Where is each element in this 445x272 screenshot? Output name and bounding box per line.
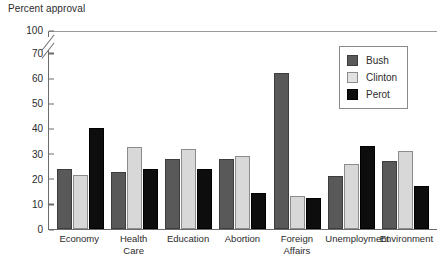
bar-bush-unemployment (328, 176, 343, 229)
bar-perot-economy (89, 128, 104, 229)
legend-swatch-bush (347, 55, 358, 66)
x-label-environment: Environment (380, 233, 432, 271)
x-label-abortion: Abortion (216, 233, 268, 271)
legend-item-bush: Bush (347, 52, 397, 69)
legend-swatch-clinton (347, 72, 358, 83)
bar-chart: Percent approval 010203040506070100 Econ… (0, 0, 445, 272)
y-tick-20: 20 (32, 173, 49, 184)
y-tick-10: 10 (32, 198, 49, 209)
bar-perot-abortion (251, 193, 266, 229)
bar-clinton-health-care (127, 147, 142, 229)
bar-group (57, 32, 104, 229)
x-label-education: Education (162, 233, 214, 271)
bar-bush-health-care (111, 172, 126, 229)
bar-bush-economy (57, 169, 72, 229)
y-tick-40: 40 (32, 123, 49, 134)
legend-label-clinton: Clinton (366, 72, 397, 83)
bar-group (274, 32, 321, 229)
bar-bush-abortion (219, 159, 234, 229)
y-tick-30: 30 (32, 148, 49, 159)
x-label-foreign-affairs: ForeignAffairs (271, 233, 323, 271)
y-axis-break-mask (47, 37, 52, 50)
legend-label-bush: Bush (366, 55, 389, 66)
bar-bush-environment (382, 161, 397, 229)
bar-bush-foreign-affairs (274, 73, 289, 229)
bar-clinton-unemployment (344, 164, 359, 229)
bar-perot-education (197, 169, 212, 229)
bar-clinton-foreign-affairs (290, 196, 305, 229)
bar-bush-education (165, 159, 180, 229)
bar-perot-environment (414, 186, 429, 229)
legend-swatch-perot (347, 89, 358, 100)
x-label-unemployment: Unemployment (325, 233, 377, 271)
bar-group (219, 32, 266, 229)
legend: BushClintonPerot (339, 46, 408, 109)
y-axis-title: Percent approval (8, 3, 85, 14)
legend-label-perot: Perot (366, 89, 390, 100)
x-axis-labels: EconomyHealthCareEducationAbortionForeig… (48, 233, 437, 271)
y-tick-100: 100 (26, 25, 49, 36)
legend-item-clinton: Clinton (347, 69, 397, 86)
legend-item-perot: Perot (347, 86, 397, 103)
bar-clinton-environment (398, 151, 413, 229)
bar-clinton-economy (73, 175, 88, 229)
x-label-health-care: HealthCare (108, 233, 160, 271)
bar-perot-foreign-affairs (306, 198, 321, 229)
bar-perot-health-care (143, 169, 158, 229)
bar-clinton-abortion (235, 156, 250, 229)
bar-perot-unemployment (360, 146, 375, 229)
bar-group (165, 32, 212, 229)
y-tick-50: 50 (32, 98, 49, 109)
bar-clinton-education (181, 149, 196, 230)
x-label-economy: Economy (53, 233, 105, 271)
bar-group (111, 32, 158, 229)
y-tick-60: 60 (32, 73, 49, 84)
